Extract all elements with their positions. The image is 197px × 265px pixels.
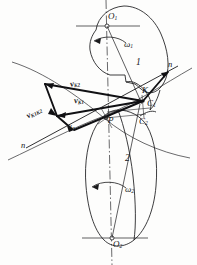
label-velocity-normal: vn — [67, 122, 75, 132]
label-velocity-k2: vK2 — [69, 78, 80, 89]
label-omega-2: ω2 — [125, 185, 134, 195]
kinematics-figure: O1 ω1 1 n vK2 vK1 vK1K2 vn K C1 P C2 n 2… — [0, 0, 197, 265]
label-omega-1: ω1 — [124, 40, 133, 50]
label-o1: O1 — [108, 12, 117, 22]
label-n-upper: n — [168, 60, 172, 69]
label-velocity-k1: vK1 — [74, 96, 85, 106]
label-k: K — [142, 86, 148, 95]
body-number-1: 1 — [136, 58, 141, 68]
label-n-lower: n — [21, 141, 25, 150]
label-c2: C2 — [139, 117, 148, 127]
body-2-flank — [118, 110, 135, 240]
label-o2: O2 — [113, 240, 122, 250]
body-number-2: 2 — [125, 154, 130, 164]
figure-canvas — [0, 0, 197, 265]
label-p: P — [108, 116, 114, 125]
label-c1: C1 — [147, 99, 156, 109]
vector-vk1-shaft — [57, 101, 143, 116]
center-line — [106, 0, 112, 265]
point-marker-k — [141, 99, 144, 102]
